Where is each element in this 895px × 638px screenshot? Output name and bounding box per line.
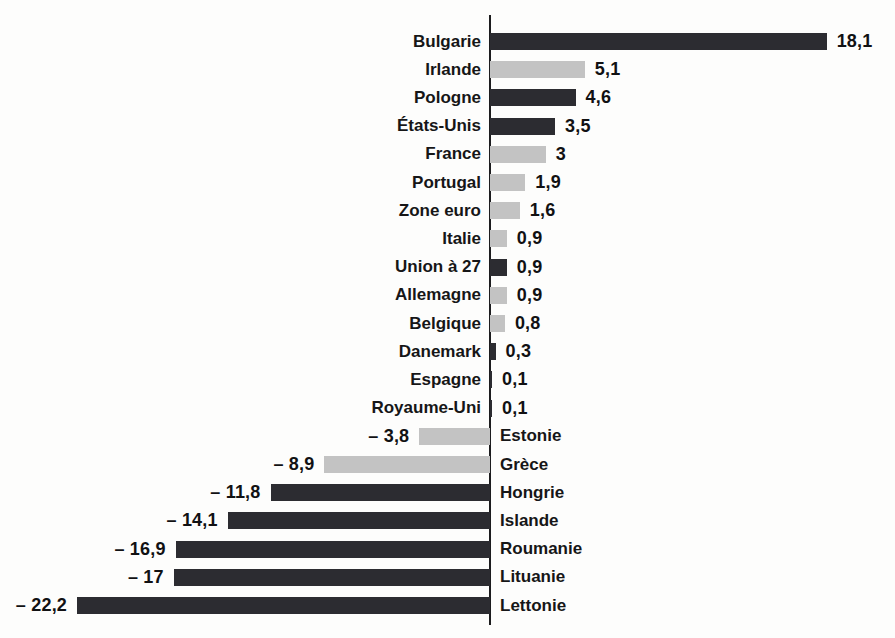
category-label: Danemark [0,342,481,362]
value-label: 18,1 [837,31,873,52]
category-label: Allemagne [0,285,481,305]
bar [419,428,490,445]
value-label: – 11,8 [0,482,261,503]
bar [490,33,827,50]
bar [490,230,507,247]
bar [490,146,546,163]
bar [490,259,507,276]
value-label: 0,8 [515,313,541,334]
category-label: Portugal [0,173,481,193]
value-label: 0,1 [502,369,528,390]
category-label: Irlande [0,60,481,80]
value-label: 0,1 [502,398,528,419]
value-label: 4,6 [586,87,612,108]
value-label: 5,1 [595,59,621,80]
category-label: Roumanie [500,539,582,559]
bar [490,118,555,135]
category-label: Islande [500,511,559,531]
value-label: 1,6 [530,200,556,221]
value-label: 3 [556,144,566,165]
bar [174,569,490,586]
category-label: Zone euro [0,201,481,221]
category-label: Grèce [500,455,548,475]
bar [490,174,525,191]
category-label: Royaume-Uni [0,398,481,418]
bar [271,484,490,501]
value-label: 0,9 [517,228,543,249]
value-label: 1,9 [535,172,561,193]
bar [490,89,576,106]
category-label: Bulgarie [0,32,481,52]
category-label: Espagne [0,370,481,390]
value-label: – 14,1 [0,510,218,531]
value-label: 0,9 [517,285,543,306]
value-label: – 3,8 [0,426,409,447]
bar-chart: Bulgarie18,1Irlande5,1Pologne4,6États-Un… [0,0,895,638]
category-label: Pologne [0,88,481,108]
value-label: 0,9 [517,257,543,278]
bar [77,597,490,614]
category-label: Lituanie [500,567,565,587]
bar [490,315,505,332]
value-label: – 17 [0,567,164,588]
category-label: France [0,144,481,164]
category-label: Italie [0,229,481,249]
category-label: Lettonie [500,596,566,616]
value-label: – 16,9 [0,539,166,560]
category-label: États-Unis [0,116,481,136]
bar [490,400,492,417]
bar [324,456,490,473]
category-label: Belgique [0,314,481,334]
bar [490,202,520,219]
bar [228,512,490,529]
category-label: Union à 27 [0,257,481,277]
category-label: Estonie [500,426,561,446]
bar [490,287,507,304]
bar [490,371,492,388]
bar [490,61,585,78]
value-label: – 8,9 [0,454,314,475]
category-label: Hongrie [500,483,564,503]
value-label: 0,3 [506,341,532,362]
value-label: 3,5 [565,116,591,137]
bar [490,343,496,360]
value-label: – 22,2 [0,595,67,616]
bar [176,541,490,558]
